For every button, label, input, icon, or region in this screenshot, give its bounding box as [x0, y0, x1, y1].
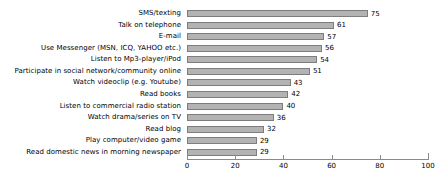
bar-value-label: 32	[267, 125, 276, 133]
bar-row: 61	[187, 20, 428, 32]
bar-row: 42	[187, 89, 428, 101]
bar	[187, 126, 264, 133]
bar-row: 56	[187, 43, 428, 55]
x-axis-tick-label: 20	[231, 162, 240, 170]
category-label: Use Messenger (MSN, ICQ, YAHOO etc.)	[0, 43, 184, 55]
bar-value-label: 57	[327, 33, 336, 41]
bar	[187, 103, 283, 110]
bar	[187, 10, 368, 17]
bar-chart: SMS/textingTalk on telephoneE-mailUse Me…	[0, 0, 444, 180]
category-label: Watch videoclip (e.g. Youtube)	[0, 77, 184, 89]
bar-row: 43	[187, 77, 428, 89]
bar	[187, 33, 324, 40]
category-label: Read domestic news in morning newspaper	[0, 146, 184, 158]
bar	[187, 45, 322, 52]
bar	[187, 91, 288, 98]
bar	[187, 68, 310, 75]
x-axis-tick-label: 40	[279, 162, 288, 170]
bar-value-label: 61	[337, 21, 346, 29]
bar-value-label: 42	[291, 90, 300, 98]
bar-value-label: 75	[371, 10, 380, 18]
x-axis-tick-label: 100	[421, 162, 434, 170]
category-label: SMS/texting	[0, 8, 184, 20]
x-axis-tick	[332, 155, 333, 160]
category-label: Talk on telephone	[0, 20, 184, 32]
category-axis-labels: SMS/textingTalk on telephoneE-mailUse Me…	[0, 8, 184, 158]
category-label: Read blog	[0, 123, 184, 135]
bars-container: 75615756545143424036322929	[187, 8, 428, 158]
bar-value-label: 54	[320, 56, 329, 64]
bar	[187, 79, 291, 86]
category-label: Watch drama/series on TV	[0, 112, 184, 124]
x-axis-tick-label: 60	[327, 162, 336, 170]
x-axis-tick-label: 0	[185, 162, 189, 170]
bar	[187, 22, 334, 29]
bar	[187, 56, 317, 63]
bar-row: 54	[187, 54, 428, 66]
bar-row: 40	[187, 100, 428, 112]
bar-value-label: 51	[313, 67, 322, 75]
bar	[187, 137, 257, 144]
x-axis-tick	[235, 155, 236, 160]
category-label: Read books	[0, 89, 184, 101]
bar-row: 51	[187, 66, 428, 78]
bar-row: 29	[187, 146, 428, 158]
category-label: Listen to commercial radio station	[0, 100, 184, 112]
bar-value-label: 29	[260, 148, 269, 156]
category-label: E-mail	[0, 31, 184, 43]
x-axis-tick	[380, 155, 381, 160]
category-label: Participate in social network/community …	[0, 66, 184, 78]
bar-value-label: 56	[325, 44, 334, 52]
bar-row: 36	[187, 112, 428, 124]
x-axis-line	[187, 159, 429, 160]
category-label: Listen to Mp3-player/iPod	[0, 54, 184, 66]
bar-row: 32	[187, 123, 428, 135]
bar	[187, 149, 257, 156]
bar-value-label: 43	[294, 79, 303, 87]
x-axis-tick-label: 80	[375, 162, 384, 170]
bar-row: 57	[187, 31, 428, 43]
x-axis-tick	[283, 155, 284, 160]
bar-row: 75	[187, 8, 428, 20]
bar-value-label: 29	[260, 137, 269, 145]
bar	[187, 114, 274, 121]
bar-row: 29	[187, 135, 428, 147]
bar-value-label: 40	[286, 102, 295, 110]
bar-value-label: 36	[277, 114, 286, 122]
category-label: Play computer/video game	[0, 135, 184, 147]
plot-area: 75615756545143424036322929	[187, 8, 428, 158]
x-axis-right-cap	[428, 153, 429, 160]
